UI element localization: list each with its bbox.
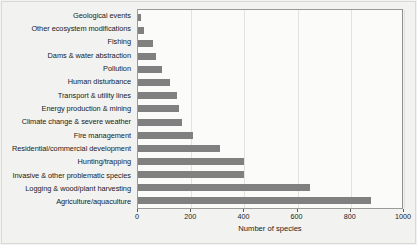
bar [138,53,156,60]
bar-row [138,11,402,24]
x-tick-label: 600 [291,212,303,221]
x-axis-title: Number of species [137,224,403,233]
x-tick-label: 200 [184,212,196,221]
category-label: Residential/commercial development [2,142,135,155]
bar [138,27,144,34]
bar [138,66,162,73]
bar-row [138,50,402,63]
category-label: Logging & wood/plant harvesting [2,182,135,195]
category-label: Dams & water abstraction [2,49,135,62]
x-tick-label: 800 [344,212,356,221]
category-label: Energy production & mining [2,102,135,115]
x-tick-label: 400 [237,212,249,221]
plot-area [137,9,403,209]
gridline [404,10,405,208]
x-tick-label: 0 [135,212,139,221]
bar [138,14,141,21]
category-label: Geological events [2,9,135,22]
bar [138,158,244,165]
bar [138,92,177,99]
category-label: Agriculture/aquaculture [2,196,135,209]
bar-row [138,155,402,168]
bar [138,171,244,178]
category-label: Climate change & severe weather [2,116,135,129]
bar-row [138,37,402,50]
category-label: Other ecosystem modifications [2,22,135,35]
bar [138,40,153,47]
category-label: Human disturbance [2,76,135,89]
bar-row [138,24,402,37]
x-axis: 02004006008001000 [137,209,403,223]
bar-row [138,181,402,194]
bar [138,132,193,139]
bar-row [138,129,402,142]
bar-row [138,102,402,115]
category-label: Fire management [2,129,135,142]
bar-row [138,194,402,207]
category-label: Hunting/trapping [2,156,135,169]
category-label: Transport & utility lines [2,89,135,102]
bars-container [138,10,402,208]
bar-row [138,168,402,181]
category-axis-labels: Geological events Other ecosystem modifi… [2,9,135,209]
x-tick-label: 1000 [395,212,411,221]
bar [138,145,220,152]
bar-row [138,89,402,102]
bar-row [138,76,402,89]
bar [138,119,182,126]
bar-row [138,116,402,129]
bar-chart-figure: Geological events Other ecosystem modifi… [0,0,417,245]
bar [138,105,179,112]
category-label: Invasive & other problematic species [2,169,135,182]
bar-row [138,142,402,155]
bar [138,79,170,86]
category-label: Pollution [2,62,135,75]
bar [138,184,310,191]
bar [138,197,371,204]
bar-row [138,63,402,76]
category-label: Fishing [2,36,135,49]
